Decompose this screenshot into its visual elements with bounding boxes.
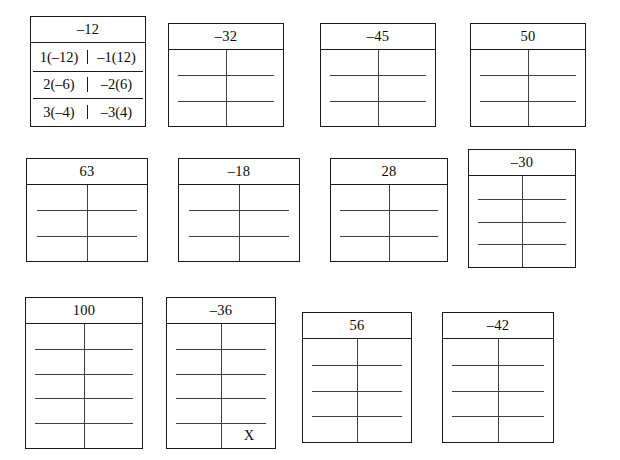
factor-pair-row: 1(‒12)‒1(12) xyxy=(31,43,145,71)
factor-box[interactable]: ‒18 xyxy=(178,158,300,262)
factor-box-product: 56 xyxy=(303,313,411,339)
answer-rule xyxy=(312,365,402,366)
factor-box-body[interactable] xyxy=(443,339,553,442)
factor-box[interactable]: 28 xyxy=(330,158,448,262)
factor-box-product: ‒45 xyxy=(321,24,435,50)
factor-box[interactable]: 63 xyxy=(26,158,148,262)
factor-box-divider xyxy=(378,50,379,126)
answer-rule xyxy=(189,210,289,211)
factor-box-body[interactable] xyxy=(26,324,142,448)
factor-box[interactable]: 50 xyxy=(470,23,586,127)
factor-pair-left: 2(‒6) xyxy=(31,77,88,92)
answer-rule xyxy=(478,199,566,200)
factor-box[interactable]: ‒42 xyxy=(442,312,554,443)
answer-rule xyxy=(452,365,544,366)
factor-box-divider xyxy=(528,50,529,126)
factor-box-body[interactable] xyxy=(169,50,283,126)
answer-rule xyxy=(176,374,266,375)
answer-rule xyxy=(35,349,133,350)
factor-box-body[interactable] xyxy=(321,50,435,126)
answer-rule xyxy=(340,210,438,211)
factor-pair-row: 2(‒6)‒2(6) xyxy=(31,71,145,99)
factor-box-divider xyxy=(84,324,85,448)
answer-mark: X xyxy=(244,429,254,443)
factor-box-body[interactable]: X xyxy=(167,324,275,448)
factor-box-divider xyxy=(87,185,88,261)
answer-rule xyxy=(178,101,274,102)
answer-rule xyxy=(176,349,266,350)
answer-rule xyxy=(35,423,133,424)
answer-rule xyxy=(176,423,266,424)
answer-rule xyxy=(178,75,274,76)
factor-box-divider xyxy=(239,185,240,261)
factor-box-product: 50 xyxy=(471,24,585,50)
answer-rule xyxy=(452,391,544,392)
factor-box-body[interactable] xyxy=(331,185,447,261)
factor-box-product: ‒32 xyxy=(169,24,283,50)
factor-box-body[interactable] xyxy=(27,185,147,261)
factor-box-product: 100 xyxy=(26,298,142,324)
factor-box-product: 28 xyxy=(331,159,447,185)
answer-rule xyxy=(312,391,402,392)
factor-box-body[interactable]: 1(‒12)‒1(12)2(‒6)‒2(6)3(‒4)‒3(4) xyxy=(31,43,145,126)
factor-pair-right: ‒3(4) xyxy=(88,105,145,120)
factor-box[interactable]: ‒32 xyxy=(168,23,284,127)
factor-pair-right: ‒2(6) xyxy=(88,77,145,92)
factor-pair-left: 3(‒4) xyxy=(31,105,88,120)
answer-rule xyxy=(37,210,137,211)
factor-pair-left: 1(‒12) xyxy=(31,50,88,65)
factor-box-product: ‒42 xyxy=(443,313,553,339)
factor-box-divider xyxy=(226,50,227,126)
answer-rule xyxy=(176,398,266,399)
factor-box[interactable]: ‒36X xyxy=(166,297,276,449)
answer-rule xyxy=(189,236,289,237)
answer-rule xyxy=(478,244,566,245)
answer-rule xyxy=(452,416,544,417)
answer-rule xyxy=(330,101,426,102)
factor-box[interactable]: 100 xyxy=(25,297,143,449)
factor-box[interactable]: ‒45 xyxy=(320,23,436,127)
answer-rule xyxy=(480,101,576,102)
answer-rule xyxy=(330,75,426,76)
factor-box-body[interactable] xyxy=(469,176,575,267)
factor-box[interactable]: 56 xyxy=(302,312,412,443)
factor-box[interactable]: ‒30 xyxy=(468,149,576,268)
factor-box-product: ‒36 xyxy=(167,298,275,324)
factor-box[interactable]: ‒121(‒12)‒1(12)2(‒6)‒2(6)3(‒4)‒3(4) xyxy=(30,16,146,127)
answer-rule xyxy=(35,374,133,375)
factor-pair-right: ‒1(12) xyxy=(88,50,145,65)
worksheet-page: ‒121(‒12)‒1(12)2(‒6)‒2(6)3(‒4)‒3(4)‒32‒4… xyxy=(0,0,620,460)
factor-box-product: ‒30 xyxy=(469,150,575,176)
factor-pair-row: 3(‒4)‒3(4) xyxy=(31,98,145,126)
factor-box-divider xyxy=(221,324,222,448)
factor-box-body[interactable] xyxy=(303,339,411,442)
answer-rule xyxy=(480,75,576,76)
factor-box-divider xyxy=(389,185,390,261)
factor-box-product: 63 xyxy=(27,159,147,185)
factor-box-product: ‒18 xyxy=(179,159,299,185)
factor-box-body[interactable] xyxy=(179,185,299,261)
factor-box-product: ‒12 xyxy=(31,17,145,43)
factor-box-body[interactable] xyxy=(471,50,585,126)
answer-rule xyxy=(340,236,438,237)
answer-rule xyxy=(37,236,137,237)
answer-rule xyxy=(478,222,566,223)
answer-rule xyxy=(312,416,402,417)
answer-rule xyxy=(35,398,133,399)
